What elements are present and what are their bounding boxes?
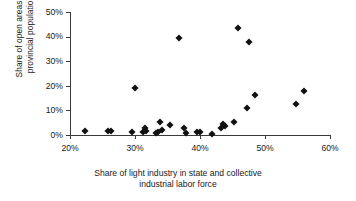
x-tick-label: 60% — [321, 144, 338, 153]
x-tick-mark — [200, 135, 201, 139]
x-tick-mark — [265, 135, 266, 139]
data-point — [131, 85, 138, 92]
y-tick-mark — [66, 110, 70, 111]
y-tick-label: 0% — [51, 131, 63, 140]
y-axis-title: Share of open areas in provincial popula… — [14, 0, 35, 101]
y-tick-label: 40% — [46, 32, 63, 41]
data-point — [81, 128, 88, 135]
x-tick-label: 20% — [61, 144, 78, 153]
data-point — [293, 100, 300, 107]
data-point — [234, 24, 241, 31]
data-point — [167, 122, 174, 129]
x-tick-label: 50% — [256, 144, 273, 153]
data-point — [143, 127, 150, 134]
data-point — [300, 87, 307, 94]
data-point — [244, 105, 251, 112]
y-tick-mark — [66, 86, 70, 87]
data-point — [157, 119, 164, 126]
x-tick-label: 30% — [126, 144, 143, 153]
x-tick-mark — [330, 135, 331, 139]
scatter-chart: Share of open areas in provincial popula… — [0, 0, 356, 201]
data-point — [231, 118, 238, 125]
x-tick-mark — [135, 135, 136, 139]
y-tick-mark — [66, 37, 70, 38]
y-tick-label: 20% — [46, 82, 63, 91]
y-tick-label: 10% — [46, 106, 63, 115]
x-tick-label: 40% — [191, 144, 208, 153]
y-axis-line — [70, 12, 71, 135]
y-tick-label: 50% — [46, 8, 63, 17]
y-tick-label: 30% — [46, 57, 63, 66]
data-point — [245, 38, 252, 45]
x-tick-mark — [70, 135, 71, 139]
data-point — [176, 34, 183, 41]
plot-area: 0%10%20%30%40%50% 20%30%40%50%60% — [70, 12, 330, 135]
x-axis-title: Share of light industry in state and col… — [0, 168, 356, 190]
y-tick-mark — [66, 12, 70, 13]
y-tick-mark — [66, 61, 70, 62]
data-point — [252, 92, 259, 99]
